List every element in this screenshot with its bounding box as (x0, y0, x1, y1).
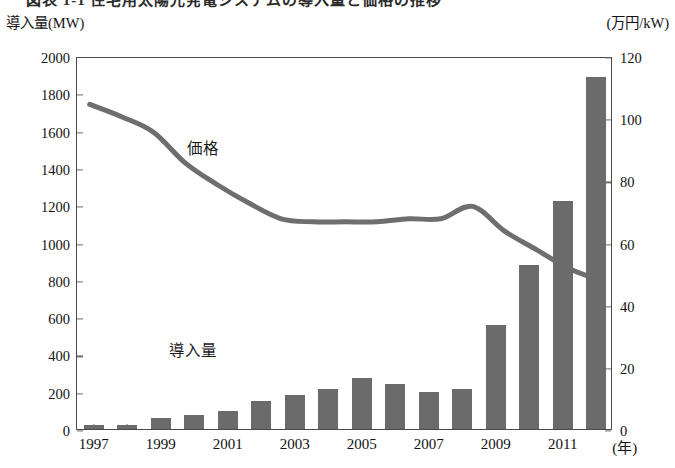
plot-area: 価格 導入量 (年) 02004006008001000120014001600… (76, 57, 612, 430)
x-axis-tick-mark (261, 424, 262, 429)
figure-title-cropped: 図表 1-1 住宅用太陽光発電システムの導入量と価格の推移 (26, 0, 443, 9)
x-axis-tick-mark (227, 424, 228, 429)
y-axis-tick-mark (77, 244, 83, 245)
price-line-path (90, 104, 601, 280)
x-axis-tick-mark (495, 424, 496, 429)
x-axis-tick-mark (361, 424, 362, 429)
x-axis-tick-mark (395, 424, 396, 429)
x-axis-tick-label-2001: 2001 (213, 436, 243, 453)
y2-axis-tick-label: 20 (620, 360, 635, 377)
x-axis-tick-mark (93, 424, 94, 429)
y-axis-tick-label: 1200 (41, 199, 70, 216)
bar-2009 (486, 325, 506, 429)
x-axis-tick-label-2007: 2007 (414, 436, 444, 453)
y-axis-tick-label: 0 (63, 423, 70, 440)
y2-axis-tick-label: 120 (620, 50, 642, 67)
y-axis-tick-label: 200 (48, 385, 70, 402)
x-axis-tick-mark (462, 424, 463, 429)
y2-axis-tick-label: 40 (620, 298, 635, 315)
y-axis-tick-mark (77, 393, 83, 394)
y-axis-tick-label: 1600 (41, 124, 70, 141)
bar-2005 (352, 378, 372, 429)
x-axis-tick-label-2009: 2009 (481, 436, 511, 453)
y2-axis-tick-label: 60 (620, 236, 635, 253)
y-axis-tick-mark (77, 95, 83, 96)
y-axis-tick-mark (77, 430, 83, 431)
bar-2008 (452, 389, 472, 429)
x-axis-tick-mark (596, 424, 597, 429)
y-axis-tick-label: 1400 (41, 161, 70, 178)
x-axis-tick-mark (562, 424, 563, 429)
x-axis-tick-mark (160, 424, 161, 429)
volume-series-label: 導入量 (169, 338, 217, 360)
y-axis-tick-mark (77, 169, 83, 170)
left-axis-unit-label: 導入量(MW) (6, 11, 84, 32)
y2-axis-tick-label: 0 (620, 423, 627, 440)
x-axis-tick-mark (529, 424, 530, 429)
price-series-label: 価格 (187, 136, 219, 158)
bar-2011 (553, 201, 573, 429)
bar-2004 (318, 389, 338, 429)
x-axis-tick-label-2011: 2011 (548, 436, 577, 453)
x-axis-tick-label-2005: 2005 (347, 436, 377, 453)
x-axis-tick-mark (194, 424, 195, 429)
bar-2012 (586, 77, 606, 429)
right-axis-unit-label: (万円/kW) (606, 11, 669, 32)
x-axis-tick-label-1997: 1997 (79, 436, 109, 453)
y-axis-tick-label: 800 (48, 273, 70, 290)
x-axis-tick-mark (328, 424, 329, 429)
y-axis-tick-label: 2000 (41, 50, 70, 67)
x-axis-tick-label-1999: 1999 (146, 436, 176, 453)
chart-figure: 図表 1-1 住宅用太陽光発電システムの導入量と価格の推移 導入量(MW) (万… (0, 0, 675, 468)
x-axis-tick-mark (127, 424, 128, 429)
y-axis-tick-mark (77, 132, 83, 133)
bar-2010 (519, 265, 539, 429)
y2-axis-tick-mark (605, 430, 611, 431)
bar-2006 (385, 384, 405, 429)
y-axis-tick-mark (77, 281, 83, 282)
y-axis-tick-label: 600 (48, 311, 70, 328)
y-axis-tick-mark (77, 356, 83, 357)
y-axis-tick-mark (77, 319, 83, 320)
x-axis-tick-label-2003: 2003 (280, 436, 310, 453)
y-axis-tick-label: 400 (48, 348, 70, 365)
x-axis-tick-mark (294, 424, 295, 429)
y2-axis-tick-mark (605, 57, 611, 58)
y-axis-tick-label: 1000 (41, 236, 70, 253)
y2-axis-tick-label: 100 (620, 112, 642, 129)
y-axis-tick-mark (77, 207, 83, 208)
x-axis-tick-mark (428, 424, 429, 429)
y2-axis-tick-label: 80 (620, 174, 635, 191)
y-axis-tick-label: 1800 (41, 87, 70, 104)
